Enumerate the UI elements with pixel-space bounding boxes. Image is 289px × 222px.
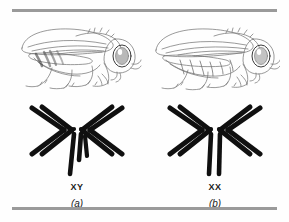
- bottom-divider-rule: [12, 207, 277, 210]
- panel-b-female: XX (b): [146, 16, 284, 204]
- fly-female-illustration: [152, 18, 280, 92]
- top-divider-rule: [12, 9, 277, 12]
- karyotype-xy: [8, 98, 146, 180]
- figure-container: XY (a): [0, 0, 289, 222]
- sex-chromosome-label-a: XY: [8, 182, 146, 192]
- karyotype-xx: [146, 98, 284, 180]
- sex-chromosome-label-b: XX: [146, 182, 284, 192]
- panel-a-male: XY (a): [8, 16, 146, 204]
- fly-male-illustration: [14, 18, 142, 92]
